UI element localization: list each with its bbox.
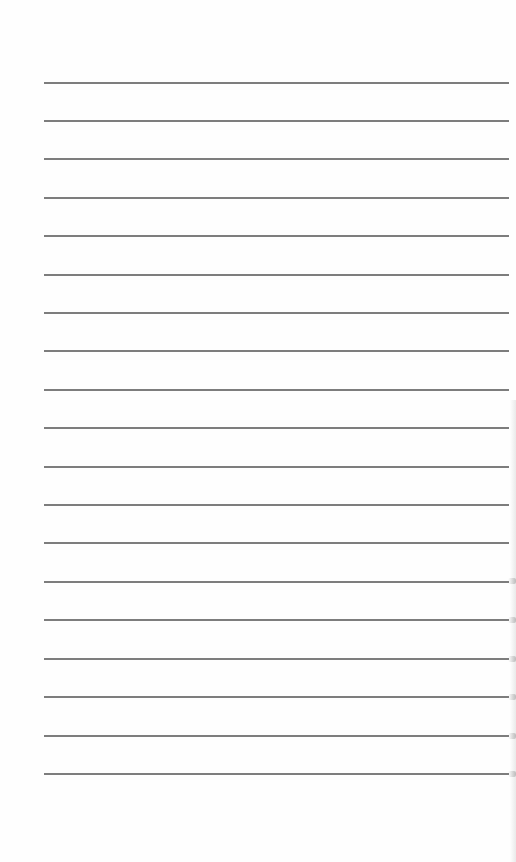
- ruled-line: [44, 427, 509, 429]
- ruled-line: [44, 735, 509, 737]
- ruled-line: [44, 274, 509, 276]
- ruled-line: [44, 197, 509, 199]
- ruled-line: [44, 696, 509, 698]
- ruled-line: [44, 581, 509, 583]
- edge-smudge: [508, 578, 516, 584]
- ruled-line: [44, 312, 509, 314]
- ruled-line: [44, 389, 509, 391]
- ruled-line: [44, 466, 509, 468]
- ruled-line: [44, 658, 509, 660]
- ruled-line: [44, 542, 509, 544]
- ruled-line: [44, 235, 509, 237]
- ruled-line: [44, 350, 509, 352]
- ruled-line: [44, 82, 509, 84]
- page-edge-shadow: [510, 400, 516, 862]
- ruled-line: [44, 120, 509, 122]
- edge-smudge: [508, 771, 516, 777]
- ruled-line: [44, 504, 509, 506]
- edge-smudge: [508, 617, 516, 623]
- lined-page: [0, 0, 516, 862]
- edge-smudge: [508, 656, 516, 662]
- ruled-line: [44, 619, 509, 621]
- ruled-line: [44, 773, 509, 775]
- ruled-line: [44, 158, 509, 160]
- edge-smudge: [508, 733, 516, 739]
- edge-smudge: [508, 694, 516, 700]
